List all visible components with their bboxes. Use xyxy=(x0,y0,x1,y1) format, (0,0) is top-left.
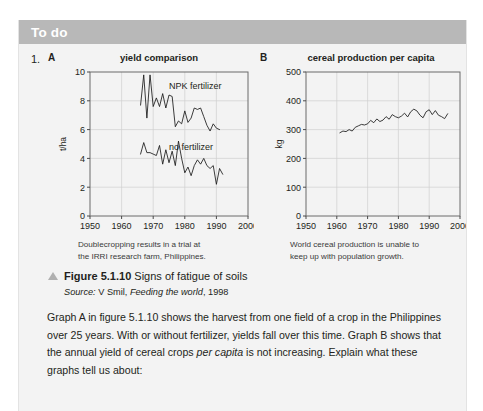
todo-title: To do xyxy=(31,25,68,40)
chart-b-caption: World cereal production is unable to kee… xyxy=(260,236,466,262)
chart-b-caption-line2: keep up with population growth. xyxy=(290,251,466,263)
chart-b-panel-letter: B xyxy=(260,52,288,63)
chart-b-caption-line1: World cereal production is unable to xyxy=(290,239,466,251)
svg-text:1980: 1980 xyxy=(388,221,408,231)
todo-card: To do 1. A yield comparison xyxy=(18,20,467,411)
svg-text:1990: 1990 xyxy=(206,221,226,231)
figure-title: Signs of fatigue of soils xyxy=(131,270,247,282)
todo-body: 1. A yield comparison 024681019501960197… xyxy=(19,44,466,379)
svg-text:1990: 1990 xyxy=(419,221,439,231)
svg-text:500: 500 xyxy=(286,67,301,77)
svg-text:2000: 2000 xyxy=(450,221,466,231)
svg-text:1960: 1960 xyxy=(327,221,347,231)
svg-text:300: 300 xyxy=(286,125,301,135)
chart-a-panel-letter: A xyxy=(48,52,76,63)
chart-b-svg: 0100200300400500195019601970198019902000… xyxy=(260,66,466,236)
todo-header-bar: To do xyxy=(19,20,466,44)
svg-text:100: 100 xyxy=(286,183,301,193)
figure-caption-row: Figure 5.1.10 Signs of fatigue of soils xyxy=(48,269,466,283)
svg-text:no fertilizer: no fertilizer xyxy=(169,142,213,152)
chart-a-caption: Doublecropping results in a trial at the… xyxy=(48,236,254,262)
chart-b-head: B cereal production per capita xyxy=(260,52,466,66)
svg-text:1980: 1980 xyxy=(175,221,195,231)
charts-container: A yield comparison 024681019501960197019… xyxy=(48,52,466,262)
svg-text:4: 4 xyxy=(80,154,85,164)
chart-a-title: yield comparison xyxy=(76,52,254,63)
svg-text:400: 400 xyxy=(286,96,301,106)
svg-text:NPK fertilizer: NPK fertilizer xyxy=(169,81,222,91)
chart-a-plot: 0246810195019601970198019902000t/haNPK f… xyxy=(48,66,254,236)
chart-panel-b: B cereal production per capita 010020030… xyxy=(260,52,466,262)
source-author: V Smil, xyxy=(96,287,130,297)
svg-text:10: 10 xyxy=(75,67,85,77)
svg-text:1950: 1950 xyxy=(80,221,100,231)
triangle-marker-icon xyxy=(48,272,58,280)
svg-text:1970: 1970 xyxy=(143,221,163,231)
question-paragraph: Graph A in figure 5.1.10 shows the harve… xyxy=(31,309,454,379)
figure-label: Figure 5.1.10 xyxy=(64,270,131,282)
svg-text:1950: 1950 xyxy=(296,221,316,231)
chart-a-caption-line2: the IRRI research farm, Philippines. xyxy=(78,251,254,263)
svg-text:t/ha: t/ha xyxy=(58,137,68,151)
chart-b-title: cereal production per capita xyxy=(288,52,466,63)
chart-a-caption-line1: Doublecropping results in a trial at xyxy=(78,239,254,251)
paragraph-italic-percapita: per capita xyxy=(197,346,244,358)
chart-b-plot: 0100200300400500195019601970198019902000… xyxy=(260,66,466,236)
source-work: Feeding the world xyxy=(130,287,203,297)
figure-source: Source: V Smil, Feeding the world, 1998 xyxy=(48,287,466,297)
svg-text:2: 2 xyxy=(80,183,85,193)
page-root: To do 1. A yield comparison xyxy=(0,0,483,411)
svg-text:1970: 1970 xyxy=(358,221,378,231)
svg-text:1960: 1960 xyxy=(112,221,132,231)
svg-text:kg: kg xyxy=(274,139,284,148)
figure-block: A yield comparison 024681019501960197019… xyxy=(48,52,466,297)
svg-text:6: 6 xyxy=(80,125,85,135)
question-row: 1. A yield comparison 024681019501960197… xyxy=(31,52,454,297)
chart-a-head: A yield comparison xyxy=(48,52,254,66)
svg-text:200: 200 xyxy=(286,154,301,164)
svg-text:8: 8 xyxy=(80,96,85,106)
figure-caption: Figure 5.1.10 Signs of fatigue of soils xyxy=(64,269,247,283)
svg-text:2000: 2000 xyxy=(238,221,254,231)
source-year: , 1998 xyxy=(203,287,229,297)
question-number: 1. xyxy=(31,52,48,65)
source-label: Source: xyxy=(64,287,96,297)
chart-panel-a: A yield comparison 024681019501960197019… xyxy=(48,52,254,262)
chart-a-svg: 0246810195019601970198019902000t/haNPK f… xyxy=(48,66,254,236)
